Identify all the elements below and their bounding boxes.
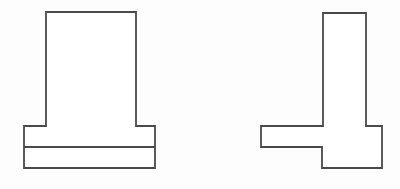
- left-figure: [24, 12, 155, 168]
- right-figure-outline: [261, 13, 382, 168]
- right-figure: [261, 13, 382, 168]
- left-figure-outline: [24, 12, 155, 168]
- drawing-canvas: [0, 0, 400, 189]
- line-drawing-svg: [0, 0, 400, 189]
